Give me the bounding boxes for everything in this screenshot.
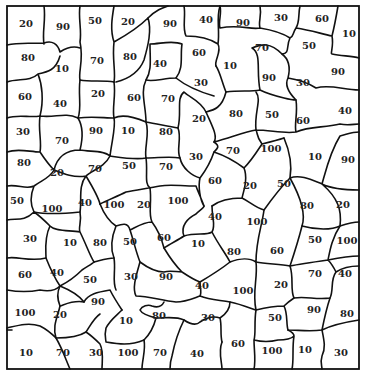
region-value: 40 [195,281,209,291]
region-value: 10 [121,126,135,136]
region-value: 40 [50,268,64,278]
region-value: 100 [168,196,189,206]
region-value: 100 [261,144,282,154]
region-value: 80 [21,53,35,63]
region-value: 90 [56,22,70,32]
region-value: 40 [78,198,92,208]
region-value: 20 [50,168,64,178]
region-value: 100 [104,200,125,210]
region-value: 60 [192,48,206,58]
region-value: 70 [88,164,102,174]
region-value: 60 [231,339,245,349]
region-value: 100 [337,236,358,246]
region-value: 10 [308,152,322,162]
region-value: 70 [161,94,175,104]
region-value: 70 [226,146,240,156]
region-value: 100 [42,204,63,214]
region-value: 20 [336,200,350,210]
region-value: 30 [194,78,208,88]
region-value: 90 [89,126,103,136]
region-value: 90 [91,297,105,307]
region-value: 60 [127,93,141,103]
region-value: 30 [274,13,288,23]
region-value: 50 [277,179,291,189]
region-value: 70 [159,162,173,172]
region-value: 50 [10,196,24,206]
region-value: 20 [192,114,206,124]
region-value: 80 [93,238,107,248]
region-value: 90 [341,155,355,165]
region-value: 30 [23,234,37,244]
region-value: 80 [340,309,354,319]
region-value: 30 [334,348,348,358]
region-value: 80 [152,311,166,321]
region-value: 90 [159,272,173,282]
region-value: 100 [262,346,283,356]
region-value: 80 [159,127,173,137]
region-value: 70 [56,348,70,358]
region-value: 50 [268,313,282,323]
region-value: 20 [19,19,33,29]
region-value: 10 [63,238,77,248]
region-value: 40 [153,59,167,69]
region-value: 20 [91,89,105,99]
region-value: 20 [121,17,135,27]
region-value: 10 [119,316,133,326]
region-value: 40 [53,99,67,109]
region-value: 50 [83,275,97,285]
region-value: 20 [243,181,257,191]
region-value: 30 [189,152,203,162]
region-value: 90 [163,19,177,29]
region-value: 10 [223,61,237,71]
region-value: 90 [307,305,321,315]
region-value: 40 [199,15,213,25]
region-value: 80 [17,158,31,168]
region-value: 60 [157,233,171,243]
region-value: 50 [308,235,322,245]
region-value: 80 [300,201,314,211]
region-value: 40 [338,106,352,116]
region-value: 60 [18,92,32,102]
region-value: 60 [208,176,222,186]
region-value: 20 [274,280,288,290]
region-value: 100 [15,308,36,318]
region-value: 30 [201,313,215,323]
region-value: 10 [55,64,69,74]
region-value: 50 [302,41,316,51]
region-value: 10 [19,348,33,358]
region-value: 30 [89,348,103,358]
region-value: 100 [118,348,139,358]
region-value: 100 [233,286,254,296]
region-value: 40 [208,212,222,222]
region-value: 50 [265,110,279,120]
region-value: 60 [18,270,32,280]
region-value: 70 [255,43,269,53]
region-value: 30 [16,127,30,137]
region-value: 50 [123,237,137,247]
region-value: 10 [191,239,205,249]
region-value: 40 [338,269,352,279]
region-value: 70 [90,56,104,66]
region-value: 60 [315,14,329,24]
region-value: 90 [262,73,276,83]
region-value: 20 [137,200,151,210]
region-map: 2090502090409030601080107080406010705090… [0,0,365,376]
region-value: 20 [53,310,67,320]
region-value: 50 [88,16,102,26]
region-value: 80 [229,109,243,119]
region-value: 50 [122,161,136,171]
region-value: 30 [124,272,138,282]
region-value: 80 [123,52,137,62]
region-value: 70 [308,269,322,279]
region-value: 40 [190,349,204,359]
region-value: 100 [247,217,268,227]
region-value: 10 [342,29,356,39]
region-value: 70 [55,136,69,146]
region-value: 60 [296,116,310,126]
region-value: 70 [153,348,167,358]
region-value: 90 [331,67,345,77]
region-value: 30 [296,78,310,88]
region-value: 80 [227,247,241,257]
region-value: 90 [236,18,250,28]
region-value: 10 [298,345,312,355]
